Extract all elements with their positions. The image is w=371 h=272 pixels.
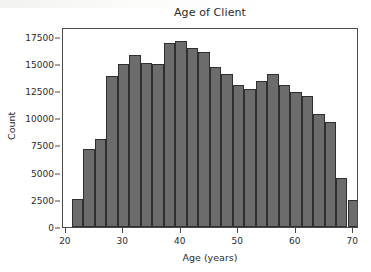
histogram-bar — [348, 200, 359, 227]
histogram-bar — [187, 48, 198, 227]
y-axis-label: Count — [6, 112, 17, 140]
histogram-bar — [233, 85, 244, 227]
y-axis-tick-mark — [55, 173, 60, 174]
y-axis-tick-label: 10000 — [25, 114, 54, 124]
x-axis-tick-mark — [65, 228, 66, 233]
y-axis-tick-label: 12500 — [25, 87, 54, 97]
x-axis-tick-mark — [295, 228, 296, 233]
y-axis-tick-mark — [55, 200, 60, 201]
histogram-bars — [63, 29, 357, 227]
histogram-bar — [129, 55, 140, 227]
histogram-bar — [141, 63, 152, 227]
y-axis-tick-mark — [55, 228, 60, 229]
x-axis-tick-mark — [237, 228, 238, 233]
histogram-bar — [164, 43, 175, 227]
y-axis-tick-mark — [55, 119, 60, 120]
histogram-bar — [210, 67, 221, 227]
histogram-bar — [336, 178, 347, 227]
y-axis-tick-label: 2500 — [31, 196, 54, 206]
y-axis-tick-label: 17500 — [25, 33, 54, 43]
y-axis-tick-mark — [55, 146, 60, 147]
y-axis-tick-label: 0 — [48, 223, 54, 233]
histogram-bar — [279, 85, 290, 227]
x-axis-tick-label: 50 — [232, 236, 243, 246]
y-axis-tick-mark — [55, 64, 60, 65]
plot-area — [62, 28, 358, 228]
histogram-bar — [313, 114, 324, 227]
histogram-bar — [95, 139, 106, 227]
histogram-bar — [83, 149, 94, 227]
histogram-bar — [175, 41, 186, 227]
histogram-bar — [302, 96, 313, 227]
x-axis-tick-mark — [352, 228, 353, 233]
y-axis-tick-label: 15000 — [25, 60, 54, 70]
histogram-bar — [118, 64, 129, 227]
x-axis-tick-mark — [122, 228, 123, 233]
x-axis-tick-label: 70 — [347, 236, 358, 246]
figure-canvas: Age of Client Count 02500500075001000012… — [0, 0, 371, 272]
histogram-bar — [290, 92, 301, 227]
x-axis-label: Age (years) — [62, 252, 358, 263]
y-axis-tick-label: 5000 — [31, 169, 54, 179]
histogram-bar — [325, 122, 336, 227]
x-axis-tick-label: 40 — [174, 236, 185, 246]
histogram-bar — [256, 81, 267, 227]
histogram-bar — [152, 64, 163, 227]
histogram-bar — [267, 74, 278, 227]
x-axis-tick-label: 30 — [117, 236, 128, 246]
histogram-bar — [244, 89, 255, 227]
y-axis: Count 025005000750010000125001500017500 — [0, 28, 62, 228]
x-axis-tick-label: 20 — [59, 236, 70, 246]
histogram-bar — [221, 74, 232, 227]
y-axis-tick-mark — [55, 37, 60, 38]
x-axis-tick-mark — [180, 228, 181, 233]
histogram-bar — [198, 52, 209, 227]
histogram-bar — [72, 199, 83, 227]
y-axis-tick-mark — [55, 92, 60, 93]
chart-title: Age of Client — [62, 6, 358, 19]
histogram-bar — [106, 76, 117, 227]
x-axis-tick-label: 60 — [289, 236, 300, 246]
x-axis: Age (years) 203040506070 — [62, 228, 358, 268]
y-axis-tick-label: 7500 — [31, 141, 54, 151]
